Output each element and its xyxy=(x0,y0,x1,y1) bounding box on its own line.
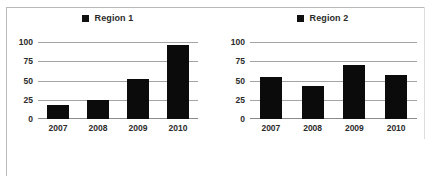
bar-group xyxy=(250,42,417,119)
x-tick-label: 2008 xyxy=(78,123,118,133)
y-tick-label: 0 xyxy=(240,114,245,124)
bar-slot xyxy=(158,42,198,119)
filled-square-icon xyxy=(297,15,304,22)
y-tick-label: 50 xyxy=(236,76,245,86)
bar-slot xyxy=(334,42,376,119)
x-tick-label: 2007 xyxy=(38,123,78,133)
x-tick-label: 2009 xyxy=(118,123,158,133)
bar-slot xyxy=(78,42,118,119)
bar xyxy=(47,105,69,119)
x-tick-label: 2007 xyxy=(250,123,292,133)
bar-chart-region-1: Region 1 100 75 50 25 0 2007 2008 2009 xyxy=(0,0,215,176)
bar-slot xyxy=(118,42,158,119)
x-axis-labels: 2007 2008 2009 2010 xyxy=(250,123,417,133)
bar-group xyxy=(38,42,198,119)
x-tick-label: 2010 xyxy=(375,123,417,133)
legend-label: Region 2 xyxy=(310,14,349,23)
bar-slot xyxy=(292,42,334,119)
legend-label: Region 1 xyxy=(95,14,134,23)
bar xyxy=(260,77,282,119)
y-tick-label: 75 xyxy=(24,56,33,66)
y-tick-label: 25 xyxy=(24,95,33,105)
bar-slot xyxy=(375,42,417,119)
x-tick-label: 2010 xyxy=(158,123,198,133)
plot-area: 100 75 50 25 0 2007 2008 2009 2010 xyxy=(250,42,417,119)
y-tick-label: 75 xyxy=(236,56,245,66)
bar xyxy=(385,75,407,119)
y-tick-label: 0 xyxy=(28,114,33,124)
bar-chart-region-2: Region 2 100 75 50 25 0 2007 2008 2009 xyxy=(215,0,430,176)
bar xyxy=(343,65,365,119)
x-axis-labels: 2007 2008 2009 2010 xyxy=(38,123,198,133)
y-tick-label: 100 xyxy=(19,37,33,47)
bar xyxy=(87,100,109,119)
bar-slot xyxy=(250,42,292,119)
bar-slot xyxy=(38,42,78,119)
legend: Region 1 xyxy=(0,14,215,23)
bar xyxy=(167,45,189,119)
figure-panel: Region 1 100 75 50 25 0 2007 2008 2009 xyxy=(0,0,431,176)
legend: Region 2 xyxy=(215,14,430,23)
y-tick-label: 50 xyxy=(24,76,33,86)
y-tick-label: 25 xyxy=(236,95,245,105)
y-tick-label: 100 xyxy=(231,37,245,47)
bar xyxy=(302,86,324,119)
x-tick-label: 2009 xyxy=(334,123,376,133)
x-tick-label: 2008 xyxy=(292,123,334,133)
filled-square-icon xyxy=(82,15,89,22)
bar xyxy=(127,79,149,119)
plot-area: 100 75 50 25 0 2007 2008 2009 2010 xyxy=(38,42,198,119)
